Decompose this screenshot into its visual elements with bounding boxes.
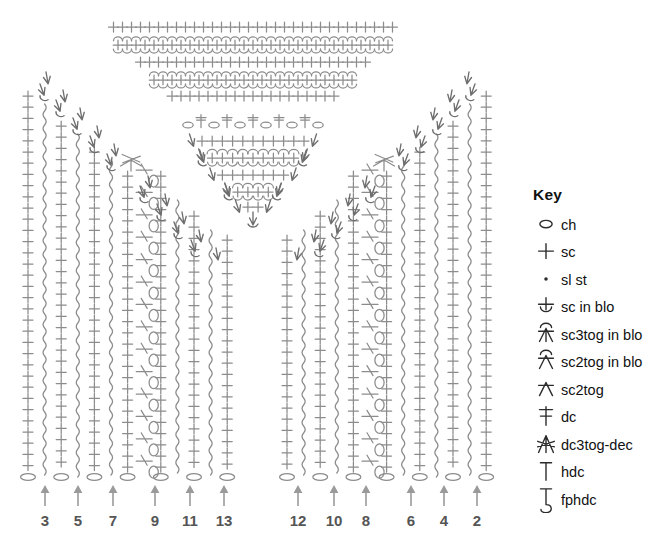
dc-bar <box>362 321 378 331</box>
key-item-label: sc3tog in blo <box>561 327 642 343</box>
dc3tog-dec-symbol <box>374 155 395 172</box>
sc-symbol <box>382 283 392 293</box>
sc-symbol <box>56 334 66 344</box>
ch-symbol <box>149 444 158 456</box>
ch-symbol <box>235 122 245 128</box>
ch-symbol <box>209 122 219 128</box>
sc-symbol <box>56 155 66 165</box>
sc-symbol <box>23 337 33 347</box>
sc-symbol <box>282 336 292 346</box>
ch-symbol <box>375 287 384 299</box>
sc-in-blo-symbol <box>185 75 195 88</box>
sc-symbol <box>189 424 199 434</box>
sc-in-blo-symbol <box>203 75 213 88</box>
sc-symbol <box>448 390 458 400</box>
key-item: sl st <box>531 266 666 294</box>
sc-in-blo-symbol <box>320 75 330 88</box>
sc-symbol <box>89 326 99 336</box>
sc-symbol <box>481 281 491 291</box>
row-marker-arrow-head <box>407 485 416 493</box>
dc-symbol <box>300 115 310 128</box>
sc-symbol <box>382 261 392 271</box>
ch-symbol <box>375 197 384 209</box>
decrease-arrow-symbol <box>60 90 67 102</box>
sc2tog-in-blo-symbol <box>399 154 410 171</box>
sc-symbol <box>481 315 491 325</box>
key-item: dc <box>531 404 666 432</box>
key-item: sc2tog in blo <box>531 349 666 377</box>
sc-symbol <box>282 425 292 435</box>
ch-symbol <box>183 122 193 128</box>
sc-in-blo-symbol <box>311 75 321 88</box>
sc-symbol <box>123 417 133 427</box>
ch-symbol <box>375 421 384 433</box>
sc-symbol <box>348 395 358 405</box>
decrease-arrow-symbol <box>196 230 203 242</box>
decrease-arrow-symbol <box>448 90 455 102</box>
sc-symbol <box>123 249 133 259</box>
sc-symbol <box>415 225 425 235</box>
sc-in-blo-symbol <box>228 153 238 166</box>
decrease-arrow-symbol <box>465 72 472 84</box>
sc-symbol <box>481 270 491 280</box>
sc-symbol <box>481 248 491 258</box>
sc-symbol <box>56 121 66 131</box>
sc-symbol <box>448 166 458 176</box>
sc-symbol <box>23 259 33 269</box>
sc-symbol <box>315 312 325 322</box>
sc-symbol <box>228 136 238 146</box>
sc-symbol <box>282 257 292 267</box>
sc2tog-in-blo-symbol <box>38 84 48 101</box>
sc-symbol <box>23 169 33 179</box>
sc-symbol <box>189 289 199 299</box>
sc-symbol <box>481 225 491 235</box>
decrease-arrow-symbol <box>329 212 336 224</box>
sc-symbol <box>123 429 133 439</box>
sc-symbol <box>299 136 309 146</box>
decrease-arrow-symbol <box>77 108 84 120</box>
sc-symbol <box>481 461 491 471</box>
sc-in-blo-symbol <box>176 75 186 88</box>
sc-symbol <box>123 193 133 203</box>
sc-symbol <box>315 368 325 378</box>
row-number-label: 10 <box>326 512 343 529</box>
ch-symbol <box>149 309 158 321</box>
sc-symbol <box>56 379 66 389</box>
sc-symbol <box>315 390 325 400</box>
sc-symbol <box>348 328 358 338</box>
sc2tog-in-blo-symbol <box>272 183 283 200</box>
sc-symbol <box>222 235 232 245</box>
sc-in-blo-symbol <box>167 75 177 88</box>
decrease-arrow-symbol <box>213 248 220 260</box>
decrease-arrow-symbol <box>88 136 94 147</box>
sc-symbol <box>448 211 458 221</box>
fphdc-post <box>43 104 46 475</box>
sc-symbol <box>415 169 425 179</box>
sc2tog-in-blo-symbol <box>349 204 360 221</box>
sc-symbol <box>315 457 325 467</box>
sc-symbol <box>315 211 325 221</box>
decrease-arrow-symbol <box>454 100 460 111</box>
sc-in-blo-symbol <box>253 187 263 200</box>
key-item-list: chscsl stsc in blosc3tog in blosc2tog in… <box>531 211 666 514</box>
sc-symbol <box>448 289 458 299</box>
key-item: fphdc <box>531 486 666 514</box>
sc-symbol <box>282 448 292 458</box>
sc-symbol <box>481 136 491 146</box>
sc-symbol <box>23 113 33 123</box>
sc-symbol <box>123 328 133 338</box>
sc-symbol <box>56 177 66 187</box>
ch-symbol <box>375 377 384 389</box>
sc-in-blo-symbol <box>264 187 274 200</box>
sc-symbol <box>222 313 232 323</box>
sc-in-blo-symbol <box>279 153 289 166</box>
sc-symbol <box>89 248 99 258</box>
sc-symbol <box>382 373 392 383</box>
sc-symbol <box>189 301 199 311</box>
sc-symbol <box>222 280 232 290</box>
sc-symbol <box>23 349 33 359</box>
sc-in-blo-symbol <box>293 40 303 53</box>
sc-symbol <box>448 199 458 209</box>
sc-symbol <box>23 393 33 403</box>
sc-symbol <box>222 381 232 391</box>
